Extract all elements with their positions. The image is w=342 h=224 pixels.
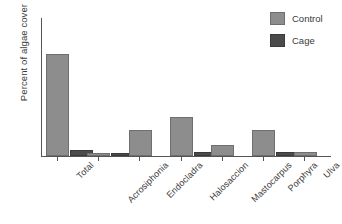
control-swatch-icon bbox=[270, 12, 285, 25]
x-tick-label-mastocarpus: Mastocarpus bbox=[249, 160, 293, 204]
x-axis-tick bbox=[98, 156, 99, 161]
x-tick-label-endocladra: Endocladra bbox=[165, 160, 205, 200]
x-axis-tick bbox=[304, 156, 305, 161]
legend-label-cage: Cage bbox=[292, 35, 315, 46]
x-tick-label-halosaccion: Halosaccion bbox=[207, 160, 250, 203]
y-axis-title: Percent of algae cover bbox=[18, 0, 29, 123]
bar-control-halosaccion[interactable] bbox=[170, 117, 193, 156]
x-axis-tick bbox=[57, 156, 58, 161]
x-tick-label-acrosiphonia: Acrosiphonia bbox=[126, 160, 171, 205]
legend-item-cage[interactable]: Cage bbox=[270, 34, 323, 47]
chart-legend: Control Cage bbox=[270, 12, 323, 56]
bar-control-mastocarpus[interactable] bbox=[211, 145, 234, 156]
bar-control-ulva[interactable] bbox=[294, 152, 317, 156]
legend-label-control: Control bbox=[292, 13, 323, 24]
legend-item-control[interactable]: Control bbox=[270, 12, 323, 25]
x-tick-label-total: Total bbox=[74, 160, 95, 181]
cage-swatch-icon bbox=[270, 34, 285, 47]
bar-control-porphyra[interactable] bbox=[252, 130, 275, 156]
x-axis-tick bbox=[181, 156, 182, 161]
bar-control-total[interactable] bbox=[46, 54, 69, 156]
bar-control-endocladra[interactable] bbox=[129, 130, 152, 156]
x-axis-line bbox=[41, 156, 331, 157]
x-axis-tick bbox=[263, 156, 264, 161]
x-axis-tick bbox=[222, 156, 223, 161]
x-axis-tick bbox=[139, 156, 140, 161]
bar-control-acrosiphonia[interactable] bbox=[87, 153, 110, 156]
x-tick-label-ulva: Ulva bbox=[322, 160, 342, 180]
algae-cover-bar-chart: Percent of algae cover TotalAcrosiphonia… bbox=[0, 0, 342, 224]
